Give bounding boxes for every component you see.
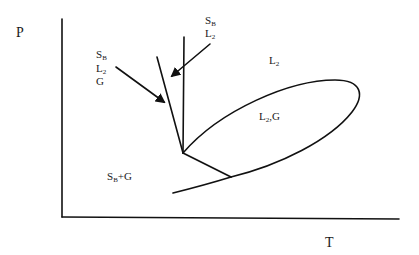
callout-top-label: SB L2	[205, 14, 216, 41]
x-axis-label: T	[325, 235, 334, 250]
callout-left-label: SB L2 G	[96, 48, 107, 87]
region-label-solid-gas: SB+G	[107, 170, 132, 184]
callout-arrow-top	[172, 44, 210, 76]
region-label-liquid-gas: L2,G	[259, 110, 280, 124]
svg-text:SB: SB	[205, 14, 216, 28]
y-axis-label: P	[16, 25, 24, 40]
svg-text:SB: SB	[96, 48, 107, 62]
region-label-liquid: L2	[269, 54, 280, 68]
svg-text:G: G	[96, 75, 104, 87]
phase-diagram: P T SB L2 G SB L2 L2 L2,G SB+G	[0, 0, 419, 255]
callout-arrow-left	[116, 67, 164, 102]
svg-text:L2: L2	[205, 27, 216, 41]
x-axis	[62, 217, 399, 219]
vertical-phase-boundary	[183, 37, 184, 153]
slanted-phase-boundary	[157, 57, 183, 153]
svg-text:L2: L2	[96, 62, 107, 76]
liquid-gas-loop	[183, 80, 359, 177]
tie-line	[183, 153, 231, 177]
sublimation-curve	[173, 177, 231, 193]
